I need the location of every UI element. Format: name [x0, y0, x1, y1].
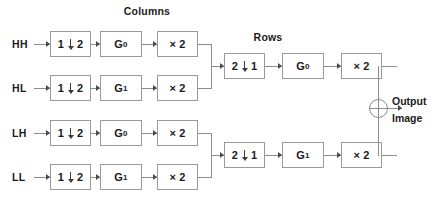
- output-label-line2: Image: [392, 112, 422, 124]
- upsample-factor-out: 1: [250, 60, 258, 72]
- gain-label: × 2: [353, 149, 369, 161]
- upsample-factor-in: 2: [231, 60, 239, 72]
- down-arrow-icon: [65, 39, 76, 50]
- wire-top-branch-down-to-adder: [378, 66, 379, 99]
- output-label-line1: Output: [392, 95, 426, 107]
- upsample-factor-out: 1: [250, 149, 258, 161]
- wire-gain-hl-to-merge: [198, 88, 211, 89]
- block-filter-columns-ll: G1: [100, 164, 142, 190]
- down-arrow-icon: [65, 128, 76, 139]
- input-label-ll: LL: [12, 171, 25, 183]
- input-label-lh: LH: [12, 127, 27, 139]
- block-filter-columns-lh: G0: [100, 120, 142, 146]
- upsample-factor-in: 2: [231, 149, 239, 161]
- block-filter-rows-bottom: G1: [282, 142, 324, 168]
- upsample-factor-in: 1: [57, 171, 65, 183]
- down-arrow-icon: [239, 61, 250, 72]
- gain-label: × 2: [169, 82, 185, 94]
- block-filter-columns-hh: G0: [100, 31, 142, 57]
- down-arrow-icon: [65, 83, 76, 94]
- input-label-hh: HH: [12, 38, 28, 50]
- block-filter-columns-hl: G1: [100, 75, 142, 101]
- gain-label: × 2: [169, 38, 185, 50]
- wire-gain-hh-to-merge: [198, 44, 211, 45]
- summing-junction-horizontal-cross: [369, 108, 388, 109]
- section-header-rows: Rows: [228, 31, 308, 43]
- upsample-factor-in: 1: [57, 127, 65, 139]
- block-upsample-rows-bottom: 2 1: [224, 142, 265, 168]
- wire-gain-ll-to-merge: [198, 177, 211, 178]
- section-header-columns: Columns: [102, 5, 192, 17]
- down-arrow-icon: [239, 150, 250, 161]
- filter-index: 0: [123, 40, 128, 49]
- block-upsample-columns-ll: 1 2: [50, 164, 91, 190]
- upsample-factor-out: 2: [76, 38, 84, 50]
- wavelet-synthesis-diagram: Columns Rows HH HL LH LL 1 2 G0 × 2 1 2 …: [0, 0, 441, 207]
- filter-index: 1: [305, 151, 310, 160]
- filter-name: G: [114, 127, 123, 139]
- block-upsample-columns-hl: 1 2: [50, 75, 91, 101]
- upsample-factor-out: 2: [76, 82, 84, 94]
- filter-name: G: [114, 38, 123, 50]
- block-upsample-columns-hh: 1 2: [50, 31, 91, 57]
- filter-index: 1: [123, 173, 128, 182]
- down-arrow-icon: [65, 172, 76, 183]
- block-upsample-rows-top: 2 1: [224, 53, 265, 79]
- upsample-factor-in: 1: [57, 38, 65, 50]
- filter-index: 0: [305, 62, 310, 71]
- upsample-factor-out: 2: [76, 127, 84, 139]
- filter-name: G: [296, 60, 305, 72]
- wire-gain-lh-to-merge: [198, 133, 211, 134]
- wire-gain-bottom-to-adder: [382, 155, 397, 156]
- gain-label: × 2: [353, 60, 369, 72]
- block-gain-columns-ll: × 2: [157, 164, 198, 190]
- gain-label: × 2: [169, 171, 185, 183]
- upsample-factor-out: 2: [76, 171, 84, 183]
- filter-name: G: [296, 149, 305, 161]
- input-label-hl: HL: [12, 82, 27, 94]
- upsample-factor-in: 1: [57, 82, 65, 94]
- block-filter-rows-top: G0: [282, 53, 324, 79]
- block-gain-rows-top: × 2: [341, 53, 382, 79]
- filter-name: G: [114, 82, 123, 94]
- block-gain-columns-hl: × 2: [157, 75, 198, 101]
- block-upsample-columns-lh: 1 2: [50, 120, 91, 146]
- block-gain-rows-bottom: × 2: [341, 142, 382, 168]
- filter-name: G: [114, 171, 123, 183]
- wire-bottom-branch-up-to-adder: [378, 118, 379, 156]
- filter-index: 1: [123, 84, 128, 93]
- block-gain-columns-lh: × 2: [157, 120, 198, 146]
- wire-gain-top-to-adder: [382, 66, 397, 67]
- gain-label: × 2: [169, 127, 185, 139]
- filter-index: 0: [123, 129, 128, 138]
- block-gain-columns-hh: × 2: [157, 31, 198, 57]
